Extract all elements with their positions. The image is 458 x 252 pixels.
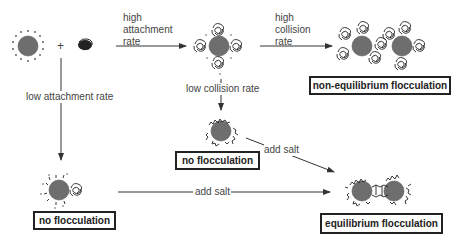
add-salt-diagonal-label: add salt: [264, 144, 299, 156]
particle-coated-coils-icon: [194, 24, 242, 75]
particle-slow-adsorb-left-icon: [40, 173, 81, 209]
equilibrium-floc-icon: [345, 175, 411, 206]
high-attachment-label-3: rate: [123, 36, 140, 48]
no-flocculation-mid-box: no flocculation: [175, 151, 260, 170]
high-attachment-label-1: high: [123, 12, 142, 24]
particle-flat-adsorbed-mid-icon: [206, 119, 238, 146]
plus-sign: +: [57, 40, 64, 52]
high-collision-label-2: collision: [275, 24, 311, 36]
low-collision-label: low collision rate: [186, 83, 259, 95]
low-attachment-label: low attachment rate: [25, 91, 114, 103]
high-attachment-label-2: attachment: [123, 24, 172, 36]
equilibrium-flocculation-box: equilibrium flocculation: [320, 213, 443, 234]
nonequilibrium-floc-icon: [337, 22, 425, 71]
non-equilibrium-flocculation-box: non-equilibrium flocculation: [309, 76, 451, 95]
high-collision-label-3: rate: [275, 36, 292, 48]
polymer-coil-icon: [78, 39, 92, 50]
bare-particle-icon: [12, 30, 44, 62]
add-salt-horizontal-label: add salt: [195, 186, 230, 198]
high-collision-label-1: high: [275, 12, 294, 24]
no-flocculation-left-box: no flocculation: [33, 211, 116, 230]
